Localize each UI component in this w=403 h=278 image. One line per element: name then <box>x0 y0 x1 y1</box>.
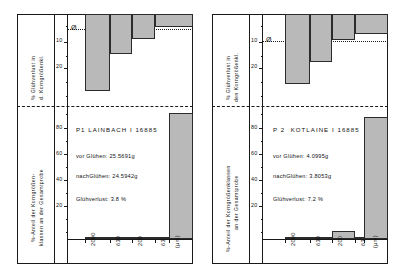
gluehverlust-right: Glühverlust: 7.2 % <box>273 196 360 204</box>
xlabel-unit-left: (µm) <box>174 235 180 248</box>
xlabel-63-right: 63 <box>360 239 366 246</box>
vor-gluehen-right: vor Glühen: 4.0995g <box>273 153 360 161</box>
ytick-20-left: 20 <box>56 202 62 208</box>
info-box-right: P 2 KOTLAINE I 16885 vor Glühen: 4.0995g… <box>273 114 360 216</box>
bar-top-2000 <box>85 14 110 91</box>
ytick-40-right: 40 <box>251 176 257 182</box>
top-scale-left <box>55 14 68 106</box>
xlabel-200-right: 200 <box>337 236 343 246</box>
top-scale-right <box>250 14 263 106</box>
xlabel-200-left: 200 <box>137 236 143 246</box>
xlabel-2000-left: 2000 <box>90 232 96 246</box>
ylabel-bottom-right-2: an der Gesamtprobe <box>233 175 239 230</box>
ytick-60-left: 60 <box>56 150 62 156</box>
figure-root: % Glühverlust in d. Korngrößenkl. %-Ante… <box>0 0 403 278</box>
ytick-20-top-left: 20 <box>56 63 62 69</box>
mean-symbol: Ø <box>266 36 271 43</box>
bottom-chart-right: P 2 KOTLAINE I 16885 vor Glühen: 4.0995g… <box>263 106 388 239</box>
info-box-left: P1 LAINBACH I 16885 vor Glühen: 25.5691g… <box>76 114 158 216</box>
bar-top-63 <box>155 14 193 27</box>
vor-gluehen-left: vor Glühen: 25.5691g <box>76 153 158 161</box>
bar-top-63 <box>355 14 388 34</box>
bottom-chart-left: P1 LAINBACH I 16885 vor Glühen: 25.5691g… <box>68 106 193 239</box>
bar-top-200 <box>132 14 155 39</box>
ytick-80-right: 80 <box>251 124 257 130</box>
panel-left-lainbach: % Glühverlust in d. Korngrößenkl. %-Ante… <box>17 14 193 264</box>
ylabel-bottom-right: %-Anteil der Korngrößenklassen <box>225 165 231 252</box>
xaxis-right <box>263 239 388 240</box>
ytick-60-right: 60 <box>251 150 257 156</box>
xlabel-63-left: 63 <box>160 239 166 246</box>
mean-symbol: Ø <box>71 24 76 31</box>
sample-id-left: P1 LAINBACH I 16885 <box>76 126 158 133</box>
gluehverlust-left: Glühverlust: 3.8 % <box>76 196 158 204</box>
ylabel-top-left-2: d. Korngrößenkl. <box>38 55 44 100</box>
xlabel-unit-right: (µm) <box>372 235 378 248</box>
nach-gluehen-right: nachGlühen: 3.8053g <box>273 173 360 181</box>
panel-right-kotlaine: % Glühverlust in den Korngrößenkl. %-Ant… <box>212 14 388 264</box>
ylabel-bottom-left-2: klassen an der Gesamtprobe <box>38 169 44 246</box>
ytick-80-left: 80 <box>56 124 62 130</box>
ylabel-top-left: % Glühverlust in <box>30 56 36 100</box>
ylabel-bottom-left: %-Anteil der Korngrößen- <box>30 173 36 242</box>
xlabel-630-right: 630 <box>315 236 321 246</box>
ytick-20-right: 20 <box>251 202 257 208</box>
top-chart-right: Ø <box>263 14 388 106</box>
xlabel-2000-right: 2000 <box>290 232 296 246</box>
ylabel-top-right-2: den Korngrößenkl. <box>233 52 239 102</box>
ytick-10-top-right: 10 <box>251 37 257 43</box>
bar-top-630 <box>310 14 332 62</box>
bar-top-2000 <box>285 14 310 84</box>
ylabel-top-right: % Glühverlust in <box>225 56 231 100</box>
ytick-10-top-left: 10 <box>56 37 62 43</box>
bar-top-630 <box>110 14 132 54</box>
xlabel-630-left: 630 <box>115 236 121 246</box>
sample-id-right: P 2 KOTLAINE I 16885 <box>273 126 360 133</box>
ytick-40-left: 40 <box>56 176 62 182</box>
bar-bottom-200 <box>332 231 355 239</box>
ytick-20-top-right: 20 <box>251 63 257 69</box>
nach-gluehen-left: nachGlühen: 24.5942g <box>76 173 158 181</box>
bar-bottom-fines <box>364 117 388 239</box>
bar-top-200 <box>332 14 355 40</box>
bar-bottom-fines <box>169 113 193 239</box>
top-chart-left: Ø <box>68 14 193 106</box>
